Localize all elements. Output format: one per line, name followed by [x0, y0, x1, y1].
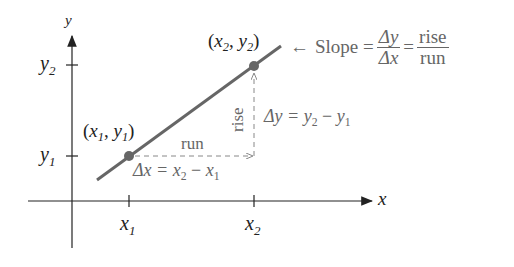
y-axis-label: y [65, 12, 72, 29]
point-2-label: (x2, y2) [208, 30, 259, 55]
point-1-label: (x1, y1) [83, 120, 134, 145]
rise-run-fraction: riserun [417, 27, 448, 68]
delta-x-formula: Δx = x2 − x1 [133, 160, 220, 183]
slope-formula: ← Slope = ΔyΔx = riserun [290, 27, 452, 68]
x1-tick-label: x1 [120, 212, 135, 239]
y1-tick-label: y1 [40, 143, 55, 170]
left-arrow-icon: ← [290, 36, 309, 58]
y2-tick-label: y2 [40, 52, 55, 79]
point-2 [249, 61, 259, 71]
delta-fraction: ΔyΔx [377, 27, 401, 68]
x-axis-label: x [378, 188, 386, 210]
rise-label: rise [228, 107, 248, 132]
run-label: run [181, 134, 204, 154]
delta-y-formula: Δy = y2 − y1 [264, 106, 351, 129]
x2-tick-label: x2 [245, 212, 260, 239]
